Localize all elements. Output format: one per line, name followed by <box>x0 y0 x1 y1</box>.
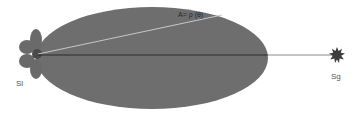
main-lobe <box>36 7 268 109</box>
diagram-canvas: A= ρ (θ) Sl Sg <box>0 0 363 116</box>
source-label: Sl <box>16 79 23 88</box>
source-core-icon <box>32 49 42 59</box>
radius-formula-label: A= ρ (θ) <box>178 11 203 19</box>
target-label: Sg <box>331 72 341 81</box>
